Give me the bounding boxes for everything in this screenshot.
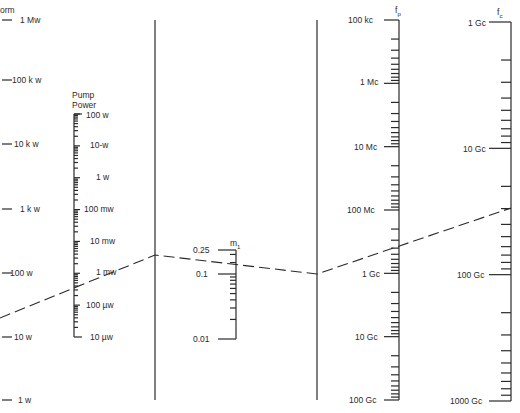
fc-tick-label: 10 Gc	[463, 145, 486, 154]
fp-scale	[384, 20, 399, 400]
fc-tick-label: 1 Gc	[468, 19, 486, 28]
pump-power-title: Pump Power	[72, 91, 96, 111]
fp-tick-label: 100 Gc	[349, 396, 376, 405]
pump-tick-label: 1 mw	[96, 268, 116, 277]
pump-tick-label: 10-w	[90, 141, 108, 150]
fp-tick-label: 10 Mc	[354, 143, 377, 152]
fc-scale	[489, 22, 511, 401]
pnorm-tick-label: 10 k w	[14, 140, 39, 149]
nomogram-canvas	[0, 0, 520, 413]
fc-title: fc	[497, 8, 502, 20]
pnorm-tick-label: 100 w	[10, 269, 33, 278]
pnorm-title: orm	[0, 6, 15, 16]
m1-tick-label: 0.25	[193, 246, 210, 255]
m1-tick-label: 0.01	[193, 335, 210, 344]
pnorm-tick-label: 1 Mw	[20, 16, 40, 25]
fp-tick-label: 1 Gc	[362, 270, 380, 279]
fp-tick-label: 100 kc	[348, 16, 373, 25]
pnorm-tick-label: 100 k w	[12, 76, 41, 85]
pump-tick-label: 1 w	[96, 173, 109, 182]
m1-title: m1	[230, 239, 240, 251]
pump-power-scale	[74, 114, 82, 337]
pnorm-tick-label: 1 w	[18, 396, 31, 405]
fp-title: fp	[395, 6, 401, 18]
fc-tick-label: 1000 Gc	[450, 397, 482, 406]
m1-scale	[218, 250, 236, 339]
pump-tick-label: 100 mw	[84, 205, 114, 214]
pump-tick-label: 100 µw	[86, 301, 114, 310]
pnorm-scale	[2, 20, 12, 400]
m1-tick-label: 0.1	[196, 270, 208, 279]
pump-tick-label: 10 µw	[90, 333, 113, 342]
example-isopleth-line	[0, 208, 511, 318]
pump-tick-label: 100 w	[86, 111, 109, 120]
fc-tick-label: 100 Gc	[457, 271, 484, 280]
pump-tick-label: 10 mw	[90, 237, 115, 246]
pnorm-tick-label: 10 w	[14, 333, 32, 342]
fp-tick-label: 100 Mc	[347, 206, 375, 215]
fp-tick-label: 10 Gc	[355, 333, 378, 342]
pnorm-tick-label: 1 k w	[20, 205, 40, 214]
fp-tick-label: 1 Mc	[360, 78, 378, 87]
